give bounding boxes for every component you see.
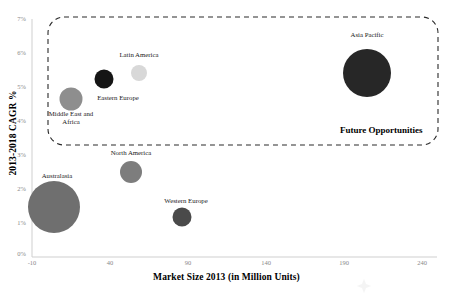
x-tick-240: 240 bbox=[407, 259, 437, 266]
bubble-label-australasia: Australasia bbox=[27, 172, 87, 180]
x-tick-190: 190 bbox=[329, 259, 359, 266]
x-tick-140: 140 bbox=[251, 259, 281, 266]
bubble-asia-pacific[interactable] bbox=[343, 49, 391, 97]
x-tick-40: 40 bbox=[95, 259, 125, 266]
bubble-north-america[interactable] bbox=[120, 161, 142, 183]
bubble-eastern-europe[interactable] bbox=[95, 70, 114, 89]
bubble-chart: 7% 6% 5% 4% 3% 2% 1% 0% -10 40 90 140 19… bbox=[0, 0, 453, 302]
bubble-label-asia-pacific: Asia Pacific bbox=[337, 31, 397, 39]
bubble-label-latin-america: Latin America bbox=[109, 51, 169, 59]
x-tick-90: 90 bbox=[173, 259, 203, 266]
x-axis-title: Market Size 2013 (in Million Units) bbox=[0, 272, 453, 282]
bubble-label-eastern-europe: Eastern Europe bbox=[87, 94, 149, 102]
chart-canvas bbox=[0, 0, 453, 302]
bubble-western-europe[interactable] bbox=[173, 208, 192, 227]
bubble-australasia[interactable] bbox=[28, 181, 80, 233]
watermark-icon bbox=[356, 278, 372, 294]
bubble-middle-east-and-africa[interactable] bbox=[60, 88, 83, 111]
zone-label-future-opportunities: Future Opportunities bbox=[340, 125, 423, 135]
bubble-latin-america[interactable] bbox=[131, 65, 147, 81]
y-tick-6: 6% bbox=[4, 49, 26, 56]
y-tick-1: 1% bbox=[4, 219, 26, 226]
bubble-label-western-europe: Western Europe bbox=[155, 197, 217, 205]
x-tick-minus10: -10 bbox=[17, 259, 47, 266]
y-axis-title: 2013-2018 CAGR % bbox=[8, 58, 18, 208]
y-tick-0: 0% bbox=[4, 250, 26, 257]
bubble-label-middle-east-and-africa: Middle East andAfrica bbox=[38, 110, 104, 127]
y-tick-7: 7% bbox=[4, 15, 26, 22]
bubble-label-north-america: North America bbox=[101, 149, 161, 157]
